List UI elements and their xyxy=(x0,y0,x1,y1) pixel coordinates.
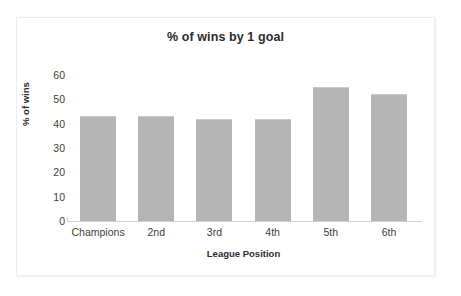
y-axis-tick-label: 50 xyxy=(39,93,65,106)
x-axis-tick-label: 3rd xyxy=(185,226,243,238)
y-axis-tick-label: 60 xyxy=(39,69,65,82)
bar xyxy=(138,116,174,221)
bar-slot xyxy=(244,75,302,221)
x-axis-tick-label: 6th xyxy=(360,226,418,238)
x-axis-tick-label: 4th xyxy=(244,226,302,238)
x-axis-title: League Position xyxy=(69,248,418,259)
y-axis-title: % of wins xyxy=(20,82,31,126)
chart-title: % of wins by 1 goal xyxy=(17,30,434,44)
x-axis-tick-label: 2nd xyxy=(127,226,185,238)
bar-slot xyxy=(127,75,185,221)
y-axis-origin-tick xyxy=(67,217,68,222)
chart-page: % of wins by 1 goal % of wins 0102030405… xyxy=(0,0,461,296)
y-axis-tick-label: 40 xyxy=(39,117,65,130)
y-axis-tick-label: 10 xyxy=(39,190,65,203)
bar xyxy=(313,87,349,221)
bar-slot xyxy=(69,75,127,221)
bar-slot xyxy=(360,75,418,221)
bar xyxy=(255,119,291,221)
chart-frame: % of wins by 1 goal % of wins 0102030405… xyxy=(16,17,435,276)
x-axis-tick-label: 5th xyxy=(302,226,360,238)
bar-slot xyxy=(302,75,360,221)
x-axis-tick-labels: Champions2nd3rd4th5th6th xyxy=(69,226,418,238)
y-axis-tick-label: 30 xyxy=(39,142,65,155)
bar-series xyxy=(69,75,418,221)
x-axis-line xyxy=(67,221,422,222)
y-axis-tick-labels: 0102030405060 xyxy=(39,68,65,228)
y-axis-tick-label: 0 xyxy=(39,215,65,228)
bar xyxy=(371,94,407,221)
x-axis-tick-label: Champions xyxy=(69,226,127,238)
bar xyxy=(196,119,232,221)
bar-slot xyxy=(185,75,243,221)
y-axis-tick-label: 20 xyxy=(39,166,65,179)
bar xyxy=(80,116,116,221)
